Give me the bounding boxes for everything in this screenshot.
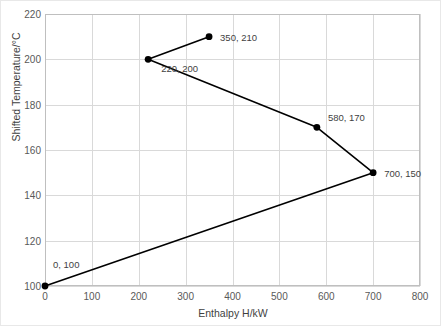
x-axis-title: Enthalpy H/kW xyxy=(45,307,421,319)
y-tick-label: 140 xyxy=(24,190,41,201)
x-tick-label: 400 xyxy=(224,291,241,302)
y-axis-title: Shifted Temperature/°C xyxy=(10,12,22,162)
y-tick-label: 120 xyxy=(24,235,41,246)
series-line xyxy=(45,37,373,286)
x-tick-label: 700 xyxy=(365,291,382,302)
y-tick-label: 220 xyxy=(24,9,41,20)
data-point-label: 220, 200 xyxy=(161,63,198,74)
plot-svg xyxy=(45,14,420,286)
x-tick-label: 0 xyxy=(42,291,48,302)
data-point-marker xyxy=(206,33,213,40)
x-tick-label: 200 xyxy=(130,291,147,302)
x-tick-label: 100 xyxy=(84,291,101,302)
data-point-label: 0, 100 xyxy=(53,259,79,270)
data-point-label: 700, 150 xyxy=(384,167,421,178)
chart-container: Shifted Temperature/°C 10012014016018020… xyxy=(0,0,441,326)
data-point-label: 350, 210 xyxy=(220,31,257,42)
x-tick-label: 800 xyxy=(412,291,429,302)
data-point-marker xyxy=(370,169,377,176)
y-tick-label: 160 xyxy=(24,145,41,156)
data-point-label: 580, 170 xyxy=(328,112,365,123)
data-point-marker xyxy=(313,124,320,131)
grid-lines xyxy=(45,14,421,287)
y-tick-label: 180 xyxy=(24,99,41,110)
x-tick-label: 600 xyxy=(318,291,335,302)
x-tick-label: 500 xyxy=(271,291,288,302)
data-point-marker xyxy=(145,56,152,63)
y-tick-label: 200 xyxy=(24,54,41,65)
data-point-marker xyxy=(42,283,49,290)
x-tick-label: 300 xyxy=(177,291,194,302)
y-tick-label: 100 xyxy=(24,281,41,292)
plot-area: 100120140160180200220 010020030040050060… xyxy=(45,14,420,286)
